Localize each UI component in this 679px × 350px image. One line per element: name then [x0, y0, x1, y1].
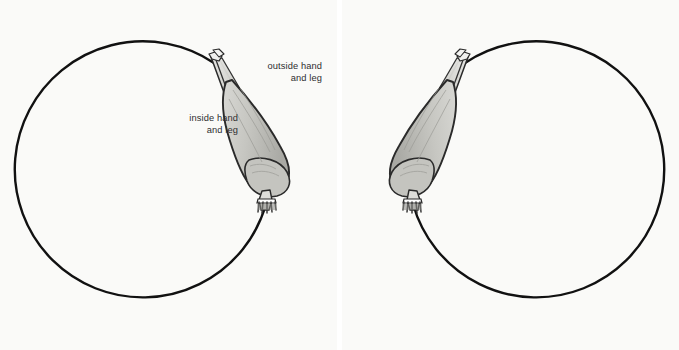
panel-right-illustration	[342, 0, 679, 350]
foot	[257, 199, 277, 213]
label-inside-hand-and-leg-left: inside handand leg	[110, 112, 238, 136]
panel-right-counterclockwise: outside handand leg inside handand leg	[342, 0, 679, 350]
label-outside-hand-and-leg-left: outside handand leg	[178, 60, 322, 84]
body-figure	[389, 49, 470, 213]
label-line-1: inside hand	[189, 113, 238, 123]
panel-left-illustration	[0, 0, 337, 350]
panel-left-clockwise: outside handand leg inside handand leg	[0, 0, 337, 350]
foot	[402, 199, 422, 213]
label-line-1: outside hand	[268, 61, 322, 71]
diagram-page: outside handand leg inside handand leg	[0, 0, 679, 350]
label-line-2: and leg	[291, 73, 322, 83]
label-line-2: and leg	[207, 125, 238, 135]
